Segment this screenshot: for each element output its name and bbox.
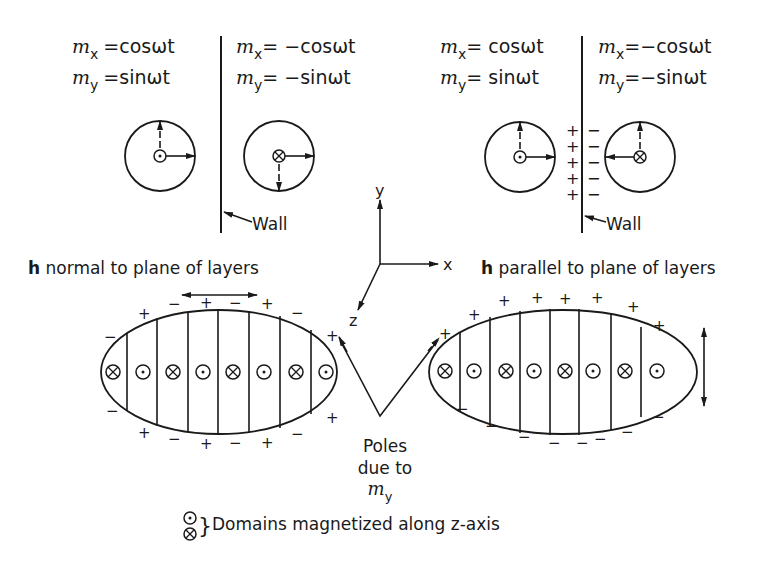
svg-text:+: + [261,434,274,452]
cross-symbol-icon [273,150,285,162]
right-panel-formulas-side-b: mx=−cosωt my=−sinωt [598,35,712,93]
svg-text:mx= −cosωt: mx= −cosωt [236,35,356,62]
cross-symbol-icon [499,364,513,378]
svg-text:+: + [468,306,481,324]
cross-symbol-icon [289,365,303,379]
cross-symbol-icon [438,364,452,378]
right-top-charges: + + + + + + + + [439,289,666,343]
svg-text:my= sinωt: my= sinωt [440,66,539,93]
x-axis-label: x [443,255,452,274]
left-bottom-charges: − + − + − + − + [106,402,339,453]
svg-text:−: − [485,417,498,435]
cross-symbol-icon [634,151,646,163]
legend-brace: } [198,513,212,538]
dot-symbol-icon [184,512,196,524]
dot-symbol-icon [196,365,210,379]
svg-text:−: − [104,328,117,346]
left-top-charges: − + − + − + − + [104,294,339,346]
dot-symbol-icon [586,364,600,378]
domain-wall-diagram: mx=cosωt my=sinωt mx= −cosωt my= −sinωt … [0,0,763,562]
svg-text:−: − [548,434,561,452]
dot-symbol-icon [136,365,150,379]
left-caption: h normal to plane of layers [28,258,259,278]
svg-text:−: − [621,423,634,441]
left-wall-label: Wall [224,212,288,234]
left-ellipse-domains: − + − + − + − + − + − + − + − + [101,294,339,453]
svg-text:+: + [591,289,604,307]
svg-text:mx=cosωt: mx=cosωt [72,35,175,62]
left-spin-circle-b [244,121,314,191]
svg-text:Poles: Poles [363,436,407,456]
svg-text:−: − [291,304,304,322]
right-ellipse-domains: + + + + + + + + − − − − − − − − [429,289,704,452]
poles-indicator: Poles due to my [339,337,439,504]
svg-text:−: − [168,295,181,313]
dot-symbol-icon [527,364,541,378]
y-axis-label: y [375,181,384,200]
svg-text:+: + [200,435,213,453]
svg-text:my=−sinωt: my=−sinωt [598,66,707,93]
cross-symbol-icon [106,365,120,379]
right-wall-charges: + + + + + − − − − − [566,121,600,204]
svg-text:mx=−cosωt: mx=−cosωt [598,35,712,62]
svg-text:−: − [291,425,304,443]
left-panel-formulas-side-a: mx=cosωt my=sinωt [72,35,175,93]
cross-symbol-icon [226,365,240,379]
dot-symbol-icon [257,365,271,379]
svg-text:−: − [518,428,531,446]
dot-symbol-icon [319,365,333,379]
svg-text:+: + [653,317,666,335]
cross-symbol-icon [618,364,632,378]
z-axis-label: z [349,311,357,330]
svg-text:+: + [498,292,511,310]
legend: } Domains magnetized along z-axis [184,512,500,540]
svg-text:−: − [168,430,181,448]
svg-text:+: + [559,290,572,308]
svg-text:−: − [652,408,665,426]
svg-text:+: + [531,289,544,307]
svg-text:+: + [627,298,640,316]
svg-text:my=sinωt: my=sinωt [72,66,170,93]
svg-text:−: − [106,402,119,420]
svg-text:Wall: Wall [252,214,288,234]
cross-symbol-icon [166,365,180,379]
svg-text:+: + [326,409,339,427]
cross-symbol-icon [558,364,572,378]
svg-text:my: my [368,478,393,504]
svg-text:−: − [456,400,469,418]
dot-symbol-icon [467,364,481,378]
svg-text:−: − [594,430,607,448]
svg-text:+: + [200,294,213,312]
cross-symbol-icon [184,528,196,540]
svg-text:+: + [138,424,151,442]
dot-symbol-icon [650,364,664,378]
svg-text:Wall: Wall [606,214,642,234]
svg-text:−: − [229,294,242,312]
svg-text:mx= cosωt: mx= cosωt [440,35,544,62]
svg-text:+: + [326,327,339,345]
svg-text:−: − [576,434,589,452]
svg-text:+: + [261,295,274,313]
right-bottom-charges: − − − − − − − − [456,400,665,452]
svg-text:due to: due to [358,458,413,478]
right-wall-label: Wall [585,214,642,234]
svg-text:+: + [439,325,452,343]
left-panel-formulas-side-b: mx= −cosωt my= −sinωt [236,35,356,93]
legend-text: Domains magnetized along z-axis [212,514,500,534]
right-caption: h parallel to plane of layers [481,258,716,278]
left-spin-circle-a [125,121,195,191]
svg-text:−: − [229,434,242,452]
svg-text:−: − [587,185,600,204]
right-spin-circle-a [485,122,555,192]
right-panel-formulas-side-a: mx= cosωt my= sinωt [440,35,544,93]
svg-text:+: + [566,185,579,204]
svg-text:my= −sinωt: my= −sinωt [236,66,351,93]
right-spin-circle-b [605,122,675,192]
svg-text:+: + [138,305,151,323]
coordinate-axes: y x z [349,181,452,330]
